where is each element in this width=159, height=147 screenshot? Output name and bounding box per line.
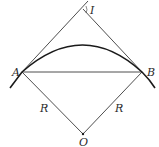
label-radius-right: R xyxy=(114,102,123,115)
label-a: A xyxy=(11,66,20,79)
label-b: B xyxy=(146,66,155,79)
label-o: O xyxy=(79,136,88,147)
label-radius-left: R xyxy=(39,102,48,115)
curve-diagram: I A B R R O xyxy=(0,0,159,147)
label-i: I xyxy=(89,4,95,17)
tangent-line-ai xyxy=(22,1,88,72)
center-point-o xyxy=(82,133,84,135)
radius-bo xyxy=(83,72,142,134)
tangent-line-ib xyxy=(83,9,142,72)
radius-ao xyxy=(22,72,83,134)
